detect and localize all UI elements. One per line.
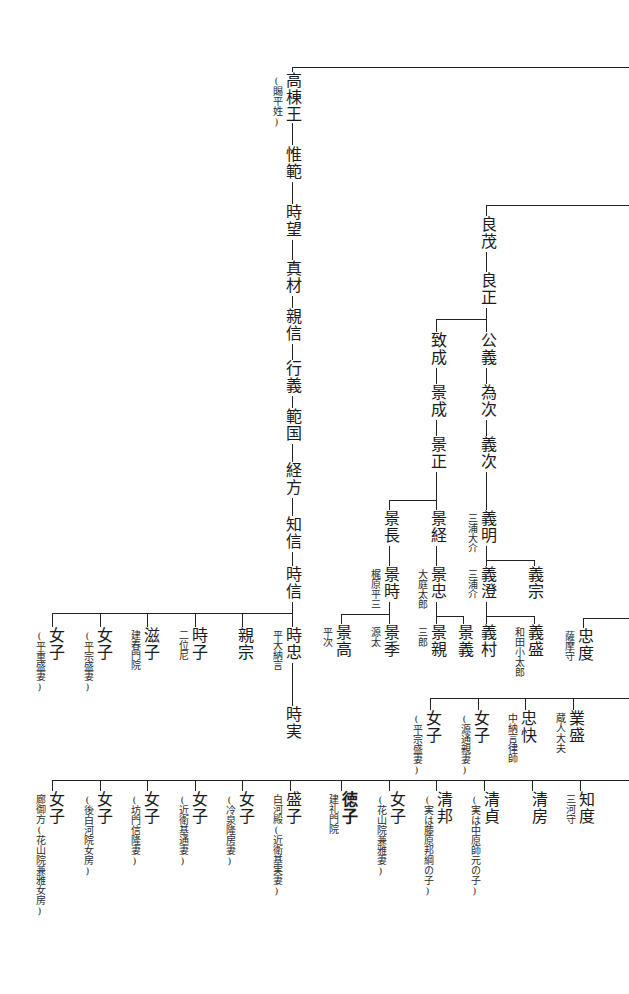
person-node-yoshimune: 義宗 <box>526 566 543 600</box>
connector-vertical <box>580 780 581 791</box>
connector-vertical <box>436 472 437 510</box>
connector-vertical <box>341 780 342 791</box>
person-node-shigeko: 滋子 <box>142 627 159 661</box>
connector-vertical <box>486 368 487 384</box>
person-node-tsunekata: 経方 <box>284 462 301 496</box>
connector-horizontal <box>436 616 463 617</box>
connector-vertical <box>242 613 243 627</box>
person-node-yoshimochi: 良茂 <box>479 216 496 250</box>
connector-vertical <box>100 613 101 627</box>
person-node-kagenari: 景成 <box>429 384 446 418</box>
person-node-woman_e: 女子 <box>47 791 64 825</box>
person-node-yoshitsugu: 義次 <box>479 436 496 470</box>
person-node-woman_b: 女子 <box>472 710 489 744</box>
person-node-kagetsune: 景経 <box>429 510 446 544</box>
person-node-kagetada: 景忠 <box>429 566 446 600</box>
connector-vertical <box>292 123 293 145</box>
person-node-woman_i: 女子 <box>237 791 254 825</box>
person-note-kiyokuni: (実は藤原邦綱の子) <box>422 794 433 896</box>
person-note-woman_e: 廊御方(花山院兼雅女房) <box>34 794 45 916</box>
person-node-kagesue: 景季 <box>382 624 399 658</box>
connector-vertical <box>52 780 53 791</box>
connector-vertical <box>525 698 526 710</box>
connector-horizontal <box>486 616 534 617</box>
connector-vertical <box>292 396 293 408</box>
connector-vertical <box>292 498 293 516</box>
connector-vertical <box>478 698 479 710</box>
person-node-kiyosada: 清貞 <box>482 791 499 825</box>
connector-vertical <box>486 602 487 624</box>
person-node-yoshizumi: 義澄 <box>479 566 496 600</box>
person-note-tokuko: 建礼門院 <box>327 794 338 834</box>
person-note-tadanori: 薩摩守 <box>563 631 574 661</box>
person-note-woman_h: (近衛基通妻) <box>177 794 188 866</box>
connector-horizontal <box>52 613 292 614</box>
person-note-kagetaka: 平次 <box>321 627 332 647</box>
person-note-woman_a: (平宗盛妻) <box>411 713 422 775</box>
person-note-kiyosada: (実は中原師元の子) <box>469 794 480 896</box>
person-node-chikanobu: 親信 <box>284 308 301 342</box>
person-node-tokitada: 時忠 <box>284 627 301 661</box>
connector-horizontal <box>430 698 629 699</box>
connector-vertical <box>534 616 535 624</box>
connector-vertical <box>292 182 293 204</box>
person-note-woman_b: (源通親妻) <box>459 713 470 775</box>
connector-vertical <box>436 780 437 791</box>
person-node-kagetaka: 景高 <box>334 624 351 658</box>
person-node-yukiyoshi: 行義 <box>284 360 301 394</box>
person-node-norikuni: 範国 <box>284 408 301 442</box>
person-note-woman_j: (花山院兼雅妻) <box>375 794 386 876</box>
connector-vertical <box>292 344 293 360</box>
person-node-kagechika: 景親 <box>429 624 446 658</box>
person-node-tokimochi: 時望 <box>284 204 301 238</box>
connector-vertical <box>486 252 487 272</box>
person-node-woman_c: 女子 <box>95 627 112 661</box>
person-note-kagetoki: 梶原平三 <box>369 569 380 609</box>
person-note-kagetada: 大庭太郎 <box>416 569 427 609</box>
person-node-woman_a: 女子 <box>424 710 441 744</box>
connector-horizontal <box>436 319 486 320</box>
connector-vertical <box>290 780 291 791</box>
person-note-woman_d: (平重盛妻) <box>34 630 45 692</box>
person-note-tomonori: 三河守 <box>564 794 575 824</box>
person-note-kagesue: 源太 <box>369 627 380 647</box>
person-node-yoshimura: 義村 <box>479 624 496 658</box>
connector-vertical <box>100 780 101 791</box>
connector-vertical <box>292 663 293 706</box>
person-node-takamune: 高棟王 <box>284 72 301 123</box>
connector-vertical <box>532 780 533 791</box>
connector-horizontal <box>292 67 629 68</box>
person-note-woman_f: (後白河院女房) <box>82 794 93 876</box>
person-node-yoshimasa: 良正 <box>479 272 496 306</box>
connector-vertical <box>436 368 437 384</box>
connector-vertical <box>484 780 485 791</box>
person-node-woman_h: 女子 <box>190 791 207 825</box>
connector-horizontal <box>486 560 534 561</box>
connector-vertical <box>436 319 437 332</box>
connector-vertical <box>52 613 53 627</box>
connector-vertical <box>583 618 584 628</box>
connector-vertical <box>436 602 437 624</box>
connector-vertical <box>195 613 196 627</box>
person-note-shigeko: 建春門院 <box>129 630 140 670</box>
person-node-yoshimori: 義盛 <box>526 624 543 658</box>
person-note-yoshimori: 和田小太郎 <box>513 627 524 677</box>
person-node-munenari: 致成 <box>429 332 446 366</box>
person-node-yoshiaki: 義明 <box>479 510 496 544</box>
person-node-tomonobu: 知信 <box>284 516 301 550</box>
person-node-kiyofusa: 清房 <box>530 791 547 825</box>
connector-vertical <box>463 616 464 624</box>
person-node-woman_d: 女子 <box>47 627 64 661</box>
person-note-takamune: (賜平姓) <box>271 75 282 127</box>
person-node-woman_j: 女子 <box>388 791 405 825</box>
connector-vertical <box>242 780 243 791</box>
connector-vertical <box>292 602 293 627</box>
person-node-woman_g: 女子 <box>142 791 159 825</box>
person-node-tomonori: 知度 <box>577 791 594 825</box>
person-node-chikamune: 親宗 <box>236 627 253 661</box>
connector-vertical <box>389 500 390 510</box>
connector-vertical <box>486 546 487 566</box>
connector-horizontal <box>341 614 389 615</box>
connector-vertical <box>147 780 148 791</box>
person-node-tokizane: 時実 <box>284 706 301 740</box>
